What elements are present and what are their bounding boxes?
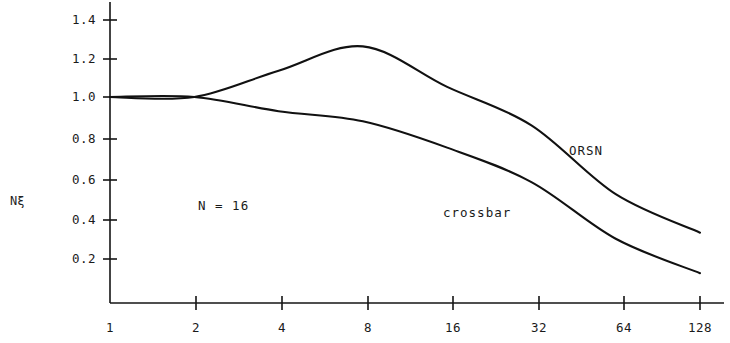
series-label-crossbar: crossbar (443, 205, 511, 220)
y-tick-label-1-4: 1.4 (38, 12, 96, 27)
series-label-orsn: ORSN (569, 143, 603, 158)
chart-canvas (0, 0, 730, 343)
y-axis-title: Nξ (10, 194, 24, 208)
y-tick-label-0-6: 0.6 (38, 172, 96, 187)
chart-figure: Nξ 1.4 1.2 1.0 0.8 0.6 0.4 0.2 1 2 4 8 1… (0, 0, 730, 343)
x-tick-label-8: 8 (348, 320, 388, 335)
x-tick-label-128: 128 (680, 320, 720, 335)
x-tick-label-1: 1 (90, 320, 130, 335)
y-tick-label-0-4: 0.4 (38, 212, 96, 227)
x-tick-label-4: 4 (262, 320, 302, 335)
annotation-n-equals-16: N = 16 (198, 198, 249, 213)
y-tick-label-1-2: 1.2 (38, 51, 96, 66)
y-tick-label-1-0: 1.0 (38, 89, 96, 104)
x-tick-label-2: 2 (176, 320, 216, 335)
series-line-crossbar (110, 96, 700, 273)
x-tick-label-64: 64 (604, 320, 644, 335)
x-tick-label-16: 16 (433, 320, 473, 335)
y-tick-label-0-8: 0.8 (38, 131, 96, 146)
x-tick-label-32: 32 (519, 320, 559, 335)
y-tick-label-0-2: 0.2 (38, 251, 96, 266)
